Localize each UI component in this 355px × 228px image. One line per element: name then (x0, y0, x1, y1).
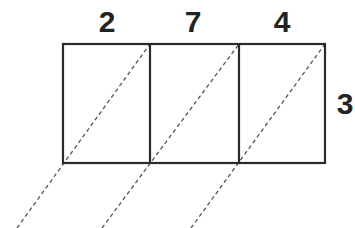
multiplicand-digit-2: 7 (185, 7, 202, 37)
multiplicand-digit-1: 2 (99, 7, 116, 37)
multiplier-digit-1: 3 (337, 89, 354, 119)
diagonal-3 (191, 44, 325, 228)
lattice-diagram: 2 7 4 3 (0, 0, 355, 228)
lattice-grid (0, 0, 355, 228)
multiplicand-digit-3: 4 (274, 7, 291, 37)
diagonal-1 (17, 44, 150, 228)
diagonal-2 (102, 44, 239, 228)
